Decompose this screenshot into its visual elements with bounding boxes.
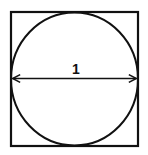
diameter-label: 1 <box>72 61 80 77</box>
inscribed-circle-diagram: 1 <box>0 0 148 155</box>
